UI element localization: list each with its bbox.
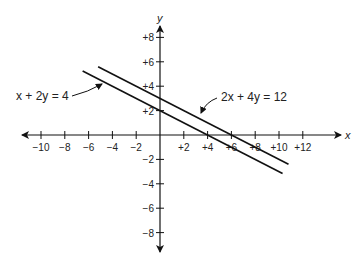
- y-tick-label: −4: [143, 179, 155, 190]
- annotation-arrow-1: [72, 84, 102, 96]
- x-ticks: −10−8−6−4−2+2+4+6+8+10+12: [33, 131, 312, 153]
- equation-label-1: x + 2y = 4: [16, 89, 69, 103]
- y-tick-label: −8: [143, 228, 155, 239]
- y-axis-label: y: [156, 12, 164, 24]
- y-tick-label: +6: [143, 57, 155, 68]
- graph: −10−8−6−4−2+2+4+6+8+10+12 +8+6+4+2−2−4−6…: [0, 0, 358, 272]
- x-tick-label: −4: [107, 142, 119, 153]
- x-tick-label: −10: [33, 142, 50, 153]
- y-tick-label: −6: [143, 203, 155, 214]
- x-tick-label: +12: [294, 142, 311, 153]
- line-2x-plus-4y-eq-12: [98, 67, 288, 165]
- x-tick-label: +4: [202, 142, 214, 153]
- x-tick-label: −6: [83, 142, 95, 153]
- line-x-plus-2y-eq-4: [83, 71, 283, 173]
- x-tick-label: +2: [178, 142, 190, 153]
- equation-label-2: 2x + 4y = 12: [221, 90, 287, 104]
- x-tick-label: +10: [271, 142, 288, 153]
- annotation-arrow-2: [201, 98, 217, 113]
- y-tick-label: +8: [143, 32, 155, 43]
- x-tick-label: −2: [130, 142, 142, 153]
- x-axis-label: x: [344, 129, 351, 141]
- y-tick-label: −2: [143, 154, 155, 165]
- x-tick-label: −8: [59, 142, 71, 153]
